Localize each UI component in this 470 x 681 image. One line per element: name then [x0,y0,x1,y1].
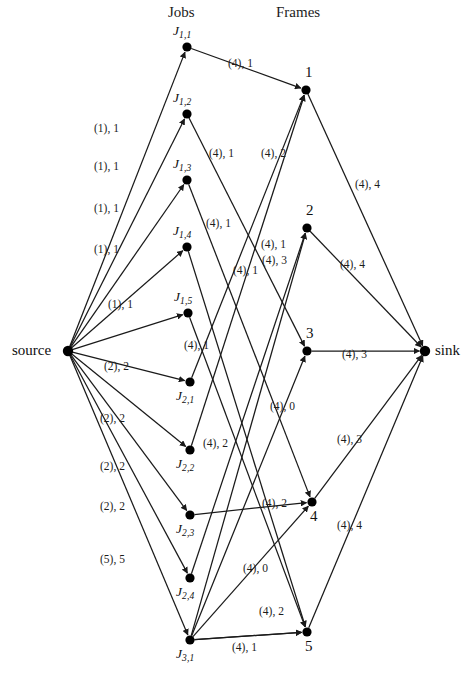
edge-label-J15-to-F5: (4), 1 [184,339,209,351]
node-source[interactable] [63,346,73,356]
edge-source-to-J31 [70,355,188,635]
node-F2[interactable] [302,223,311,232]
node-label-subscript-J12: 1,2 [179,97,191,107]
edge-label-source-to-J23: (2), 2 [100,460,125,472]
node-label-F5: 5 [305,638,313,655]
node-J15[interactable] [183,308,192,317]
node-label-J31: J3,1 [176,646,194,663]
edge-F1-to-sink [308,94,423,346]
node-J31[interactable] [185,635,194,644]
edge-label-J31-to-F4: (4), 0 [243,562,268,574]
node-label-F3: 3 [306,325,314,342]
edge-J31-to-F3 [192,356,305,636]
node-label-F4: 4 [310,508,318,525]
node-J13[interactable] [182,175,191,184]
node-label-J23: J2,3 [176,521,194,538]
frames-column-header: Frames [276,4,320,21]
edge-layer [70,49,423,640]
edge-source-to-J12 [70,119,185,347]
node-label-subscript-J14: 1,4 [179,230,191,240]
node-F4[interactable] [307,497,316,506]
edge-label-source-to-J13: (1), 1 [94,202,119,214]
edge-source-to-J13 [71,185,184,348]
node-label-J12: J1,2 [173,90,191,107]
node-F1[interactable] [301,85,310,94]
node-J24[interactable] [185,573,194,582]
node-label-source: source [12,342,51,359]
edge-label-J14-to-F5: (4), 1 [233,264,258,276]
edge-label-F2-to-sink: (4), 4 [340,258,365,270]
node-label-J15: J1,5 [174,289,192,306]
flow-network-figure: Jobs Frames (1), 1(1), 1(1), 1(1), 1(1),… [0,0,470,681]
node-label-subscript-J23: 2,3 [182,528,194,538]
edge-label-J22-to-F1: (4), 2 [203,437,228,449]
node-label-J24: J2,4 [176,584,194,601]
edge-label-F3-to-sink: (4), 3 [342,348,367,360]
edge-label-source-to-J11: (1), 1 [94,122,119,134]
node-label-subscript-J24: 2,4 [182,591,194,601]
node-label-J14: J1,4 [173,223,191,240]
edge-F4-to-sink [315,355,422,498]
node-label-J21: J2,1 [176,388,194,405]
node-F3[interactable] [302,346,311,355]
edge-label-F4-to-sink: (4), 3 [337,433,362,445]
edge-label-J31-to-F5: (4), 2 [259,605,284,617]
edge-label-source-to-J21: (2), 2 [104,360,129,372]
node-label-J13: J1,3 [173,156,191,173]
edge-J31-to-F5b [194,632,301,639]
node-label-subscript-J15: 1,5 [180,296,192,306]
node-label-subscript-J11: 1,1 [179,30,191,40]
node-label-subscript-J31: 3,1 [182,653,194,663]
node-J22[interactable] [185,445,194,454]
edge-label-J11-to-F1: (4), 1 [228,57,253,69]
edge-label-source-to-J22: (2), 2 [100,412,125,424]
node-label-subscript-J21: 2,1 [182,395,194,405]
edge-label-J31-to-F3: (4), 0 [270,400,295,412]
edge-F5-to-sink [309,356,423,628]
edge-label-source-to-J31: (5), 5 [100,553,125,565]
edge-label-F5-to-sink: (4), 4 [337,519,362,531]
node-J11[interactable] [182,42,191,51]
node-label-subscript-J13: 1,3 [179,163,191,173]
node-label-F2: 2 [306,202,314,219]
edge-label-source-to-J12: (1), 1 [94,160,119,172]
edge-J31-to-F2 [191,233,305,635]
edge-label-J31-to-F2: (4), 1 [261,238,286,250]
node-label-J11: J1,1 [173,23,191,40]
graph-canvas [0,0,470,681]
edge-label-J23-to-F4: (4), 2 [262,497,287,509]
node-label-subscript-J22: 2,2 [182,463,194,473]
edge-label-source-to-J15: (1), 1 [108,298,133,310]
node-J12[interactable] [182,109,191,118]
edge-J12-to-F3 [189,118,304,346]
node-label-F1: 1 [305,64,313,81]
node-sink[interactable] [420,346,430,356]
edge-label-J24-to-F2: (4), 3 [262,254,287,266]
edge-source-to-J24 [70,355,187,573]
edge-label-source-to-J14: (1), 1 [94,243,119,255]
node-J14[interactable] [182,242,191,251]
edge-label-J31-to-F5b: (4), 1 [232,641,257,653]
node-F5[interactable] [302,627,311,636]
edge-F2-to-sink [310,231,421,347]
edge-label-source-to-J24: (2), 2 [100,500,125,512]
edge-label-J12-to-F3: (4), 1 [209,147,234,159]
edge-label-J13-to-F4: (4), 1 [206,217,231,229]
node-label-J22: J2,2 [176,456,194,473]
node-J23[interactable] [185,510,194,519]
node-J21[interactable] [185,377,194,386]
jobs-column-header: Jobs [168,4,195,21]
edge-label-J21-to-F1: (4), 2 [261,147,286,159]
node-label-sink: sink [435,342,460,359]
edge-label-F1-to-sink: (4), 4 [355,178,380,190]
